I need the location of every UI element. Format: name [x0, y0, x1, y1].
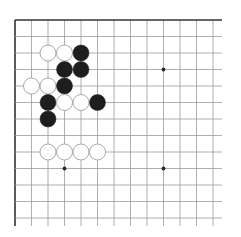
star-point-icon	[162, 68, 166, 72]
white-stone-icon[interactable]	[57, 45, 73, 61]
black-stone-icon[interactable]	[73, 62, 89, 78]
star-point-icon	[63, 167, 67, 171]
white-stone-icon[interactable]	[40, 45, 56, 61]
star-point-icon	[162, 167, 166, 171]
white-stone-icon[interactable]	[40, 78, 56, 94]
black-stone-icon[interactable]	[57, 62, 73, 78]
white-stone-icon[interactable]	[24, 78, 40, 94]
white-stone-icon[interactable]	[73, 144, 89, 160]
white-stone-icon[interactable]	[73, 95, 89, 111]
white-stone-icon[interactable]	[57, 95, 73, 111]
black-stone-icon[interactable]	[40, 95, 56, 111]
white-stone-icon[interactable]	[57, 144, 73, 160]
go-board[interactable]	[0, 0, 241, 237]
black-stone-icon[interactable]	[90, 95, 106, 111]
black-stone-icon[interactable]	[73, 45, 89, 61]
white-stone-icon[interactable]	[90, 144, 106, 160]
black-stone-icon[interactable]	[40, 111, 56, 127]
black-stone-icon[interactable]	[57, 78, 73, 94]
white-stone-icon[interactable]	[40, 144, 56, 160]
